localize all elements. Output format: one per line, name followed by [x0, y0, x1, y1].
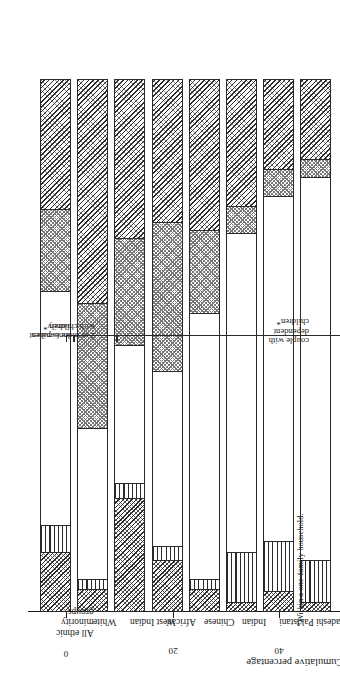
- bar-segment: [78, 80, 107, 304]
- footnote: *Within a one-family household.: [295, 513, 305, 626]
- plot-area: 020406080100 Cumulative percentage All e…: [20, 18, 320, 658]
- bar-segment: [153, 547, 182, 560]
- bar-segment: [190, 314, 219, 579]
- bar-segment: [41, 210, 70, 292]
- bar-segment: [190, 80, 219, 231]
- bar-segment: [153, 561, 182, 611]
- bar-segment: [153, 372, 182, 547]
- bar-segment: [227, 234, 256, 553]
- bar-segment: [153, 223, 182, 372]
- bar-segment: [41, 526, 70, 553]
- axis-tick-label: 20: [168, 646, 177, 656]
- bar-chinese: [189, 79, 220, 612]
- bar-segment: [190, 590, 219, 611]
- bar-segment: [41, 553, 70, 611]
- bar-segment: [190, 580, 219, 590]
- axis-tick-label: 0: [64, 649, 69, 659]
- category-label: White: [93, 617, 116, 628]
- bar-segment: [227, 553, 256, 603]
- bar-segment: [115, 80, 144, 239]
- bar-all-ethnic-minority-groups: [40, 79, 71, 612]
- bar-segment: [227, 80, 256, 207]
- bar-segment: [301, 603, 330, 611]
- bar-segment: [264, 80, 293, 170]
- category-label: Indian: [242, 617, 266, 628]
- bar-segment: [115, 484, 144, 500]
- annotation-label-couple: couple withdependentchildren*: [268, 317, 308, 345]
- category-label: All ethnicminoritygroups: [56, 606, 94, 638]
- bar-segment: [78, 580, 107, 590]
- bar-segment: [115, 500, 144, 612]
- bar-segment: [264, 542, 293, 592]
- bar-segment: [190, 231, 219, 314]
- bar-segment: [153, 80, 182, 223]
- bar-segment: [264, 170, 293, 197]
- bar-segment: [301, 178, 330, 560]
- bar-segment: [301, 80, 330, 160]
- bar-segment: [227, 207, 256, 234]
- bar-segment: [115, 346, 144, 484]
- bar-indian: [226, 79, 257, 612]
- category-label: Bangladeshi: [316, 617, 340, 628]
- axis-tick-label: 40: [274, 646, 283, 656]
- bar-segment: [78, 429, 107, 580]
- axis-title: Cumulative percentage: [246, 657, 340, 668]
- chart-figure: 020406080100 Cumulative percentage All e…: [20, 18, 320, 658]
- category-label: African: [167, 617, 196, 628]
- bar-west-indian: [114, 79, 145, 612]
- bar-segment: [301, 561, 330, 603]
- annotation-label-lone-parent: lone–parentfamily*: [29, 321, 70, 340]
- bar-white: [77, 79, 108, 612]
- bar-segment: [227, 603, 256, 611]
- bar-segment: [115, 239, 144, 345]
- bar-segment: [301, 160, 330, 179]
- bar-segment: [264, 592, 293, 611]
- bar-segment: [264, 197, 293, 542]
- bar-african: [152, 79, 183, 612]
- bar-segment: [41, 80, 70, 210]
- category-label: Chinese: [204, 617, 235, 628]
